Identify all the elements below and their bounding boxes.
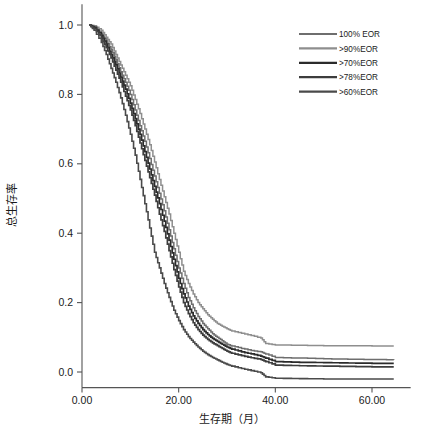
y-tick-label: 0.4: [58, 227, 73, 239]
x-axis-title: 生存期（月）: [199, 412, 265, 426]
plot-area: 0.00.20.40.60.81.0 0.0020.0040.0060.00 1…: [0, 0, 448, 442]
y-tick-label: 0.8: [58, 88, 73, 100]
survival-curve-chart: 0.00.20.40.60.81.0 0.0020.0040.0060.00 1…: [0, 0, 448, 442]
x-tick-label: 0.00: [72, 394, 93, 406]
legend-label-4: >60%EOR: [339, 88, 378, 97]
legend-label-0: 100% EOR: [339, 30, 380, 39]
y-axis-title: 总生存率: [5, 183, 19, 227]
legend-label-1: >90%EOR: [339, 45, 378, 54]
axis-titles: 生存期（月）总生存率: [5, 183, 265, 426]
y-tick-label: 0.0: [58, 366, 73, 378]
x-tick-label: 20.00: [166, 394, 192, 406]
y-tick-label: 0.2: [58, 296, 73, 308]
legend: 100% EOR>90%EOR>70%EOR>78%EOR>60%EOR: [299, 30, 380, 97]
x-axis: 0.0020.0040.0060.00: [72, 388, 411, 406]
y-tick-label: 1.0: [58, 19, 73, 31]
legend-label-2: >70%EOR: [339, 59, 378, 68]
x-tick-label: 60.00: [359, 394, 385, 406]
y-tick-label: 0.6: [58, 157, 73, 169]
legend-label-3: >78%EOR: [339, 73, 378, 82]
y-axis: 0.00.20.40.60.81.0: [58, 4, 82, 387]
x-tick-label: 40.00: [262, 394, 288, 406]
